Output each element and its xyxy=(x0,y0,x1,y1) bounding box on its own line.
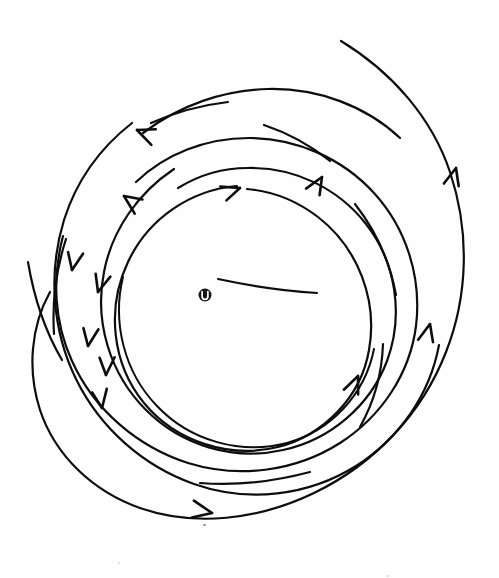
scan-speck xyxy=(203,524,206,526)
arrowhead-right-mid xyxy=(418,322,437,343)
dash-segment-bottom-low xyxy=(200,472,310,484)
arrowhead-left-lower xyxy=(81,327,98,347)
arrowhead-left-lowest xyxy=(99,357,115,376)
dash-segment-top-right xyxy=(264,125,330,161)
innermost-circle-arm xyxy=(115,186,371,451)
spiral-vortex-drawing xyxy=(0,0,499,578)
second-spiral-arm-upper-sweep xyxy=(143,89,400,138)
arrowhead-inner-circle-top xyxy=(220,180,242,200)
omega-center-marker xyxy=(199,289,212,302)
scan-speck xyxy=(118,562,120,564)
inner-circle-companion-arc xyxy=(119,277,374,447)
arrowhead-top-second-left xyxy=(119,190,144,214)
arrowhead-group xyxy=(65,123,463,521)
figure-canvas xyxy=(0,0,499,578)
fourth-spiral-arm xyxy=(101,168,396,454)
scan-speck xyxy=(386,575,389,577)
second-spiral-arm xyxy=(54,123,439,495)
arrowhead-left-upper xyxy=(65,251,83,271)
dash-segment-bottom xyxy=(218,279,317,293)
